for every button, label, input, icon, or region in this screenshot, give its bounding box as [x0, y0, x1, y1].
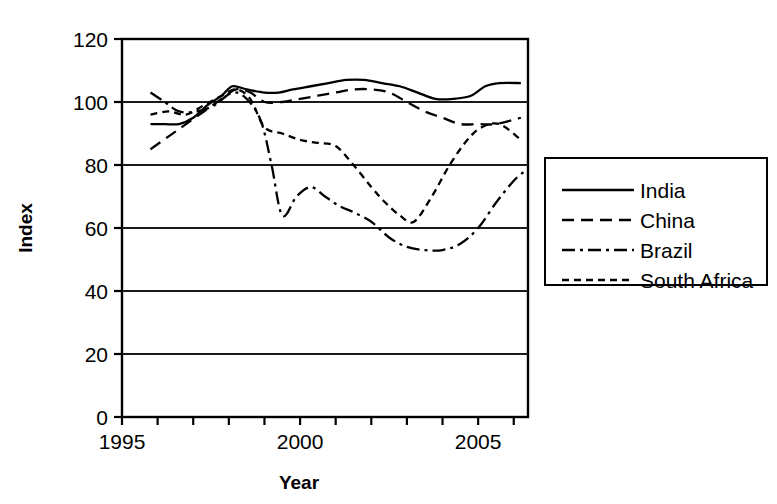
x-axis: 199520002005: [99, 417, 514, 453]
y-tick-label-20: 20: [85, 343, 108, 366]
line-chart: 020406080100120 199520002005 Year Index …: [0, 0, 777, 504]
x-tick-label-2005: 2005: [455, 430, 502, 453]
legend-label-south-africa: South Africa: [640, 269, 754, 292]
x-axis-title: Year: [279, 472, 320, 493]
legend-label-brazil: Brazil: [640, 239, 693, 262]
y-tick-label-40: 40: [85, 280, 108, 303]
legend-label-india: India: [640, 179, 686, 202]
y-axis-title: Index: [15, 203, 36, 253]
y-tick-label-80: 80: [85, 154, 108, 177]
x-tick-label-1995: 1995: [99, 430, 146, 453]
y-tick-label-60: 60: [85, 217, 108, 240]
y-tick-label-100: 100: [73, 91, 108, 114]
legend: IndiaChinaBrazilSouth Africa: [545, 158, 767, 292]
y-axis: 020406080100120: [73, 28, 122, 429]
y-tick-label-120: 120: [73, 28, 108, 51]
chart-figure: 020406080100120 199520002005 Year Index …: [0, 0, 777, 504]
x-tick-label-2000: 2000: [277, 430, 324, 453]
y-tick-label-0: 0: [96, 406, 108, 429]
legend-label-china: China: [640, 209, 695, 232]
